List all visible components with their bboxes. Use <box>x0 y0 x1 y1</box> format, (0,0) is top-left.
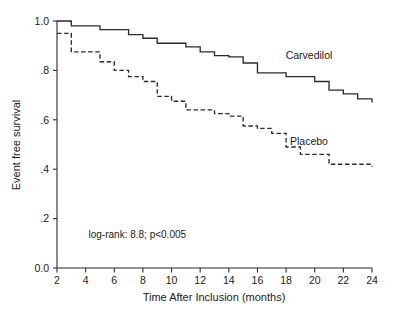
survival-chart: 0.0.2.4.6.81.0 24681012141618202224 Carv… <box>0 0 396 318</box>
log-rank-statistic: log-rank: 8.8; p<0.005 <box>89 229 187 240</box>
series-label-group: CarvedilolPlacebo <box>286 49 333 146</box>
y-tick-label: .4 <box>40 163 49 175</box>
x-tick-group: 24681012141618202224 <box>54 268 378 286</box>
y-tick-label: 0.0 <box>34 262 49 274</box>
x-tick-label: 4 <box>83 274 89 286</box>
y-tick-label: .6 <box>40 114 49 126</box>
x-axis-title: Time After Inclusion (months) <box>143 291 286 303</box>
x-axis: 24681012141618202224 <box>54 268 378 286</box>
x-tick-label: 22 <box>338 274 350 286</box>
series-label-carvedilol: Carvedilol <box>286 49 333 61</box>
y-tick-label: .8 <box>40 64 49 76</box>
x-tick-label: 20 <box>309 274 321 286</box>
y-axis: 0.0.2.4.6.81.0 <box>34 15 57 274</box>
x-tick-label: 18 <box>280 274 292 286</box>
y-tick-label: 1.0 <box>34 15 49 27</box>
x-tick-label: 10 <box>166 274 178 286</box>
series-label-placebo: Placebo <box>290 135 328 147</box>
x-tick-label: 8 <box>140 274 146 286</box>
x-tick-label: 2 <box>54 274 60 286</box>
y-axis-title: Event free survival <box>10 100 22 190</box>
x-tick-label: 12 <box>194 274 206 286</box>
y-tick-label: .2 <box>40 212 49 224</box>
x-tick-label: 16 <box>252 274 264 286</box>
x-tick-label: 24 <box>366 274 378 286</box>
y-tick-group: 0.0.2.4.6.81.0 <box>34 15 57 274</box>
x-tick-label: 14 <box>223 274 235 286</box>
annotation-group: log-rank: 8.8; p<0.005 <box>89 229 187 240</box>
kaplan-meier-figure: 0.0.2.4.6.81.0 24681012141618202224 Carv… <box>0 0 396 318</box>
x-tick-label: 6 <box>111 274 117 286</box>
curve-carvedilol <box>57 21 372 103</box>
